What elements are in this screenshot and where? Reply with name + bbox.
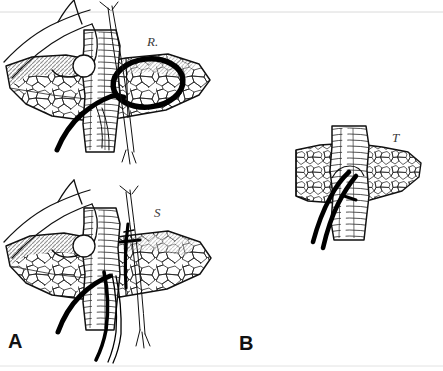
panel-a-lower-view [0,180,220,363]
panel-label-b: B [239,333,253,353]
tubular-structure-lower [80,208,122,330]
figure-root: R. S T A B [0,0,443,371]
structure-label-r: R. [147,35,158,48]
panel-a-upper-view [0,0,220,164]
surgical-illustration [0,0,443,371]
panel-b-detail-view [290,126,430,248]
panel-label-a: A [8,331,22,351]
structure-label-s: S [154,206,161,219]
structure-label-t: T [392,131,399,144]
